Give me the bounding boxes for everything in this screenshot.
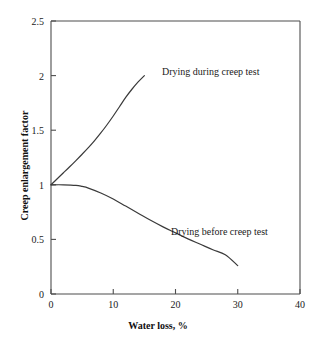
x-tick-label-10: 10 (108, 299, 118, 310)
annotation-drying-before-creep-test: Drying before creep test (171, 226, 268, 237)
y-tick-label-2-5: 2.5 (24, 16, 44, 27)
x-axis-title: Water loss, % (0, 320, 316, 331)
x-tick-label-30: 30 (233, 299, 243, 310)
y-axis-title: Creep enlargement factor (19, 76, 30, 256)
x-tick-label-20: 20 (171, 299, 181, 310)
series-line-drying-during (51, 76, 144, 185)
x-tick-label-0: 0 (49, 299, 54, 310)
plot-area (0, 0, 316, 341)
x-tick-marks (51, 289, 300, 294)
x-tick-label-40: 40 (295, 299, 305, 310)
annotation-drying-during-creep-test: Drying during creep test (162, 66, 259, 77)
y-tick-marks (51, 21, 56, 294)
y-tick-label-0: 0 (24, 289, 44, 300)
chart-figure: 2.5 2 1.5 1 0.5 0 0 10 20 30 40 Water lo… (0, 0, 316, 341)
axis-frame (51, 21, 300, 294)
